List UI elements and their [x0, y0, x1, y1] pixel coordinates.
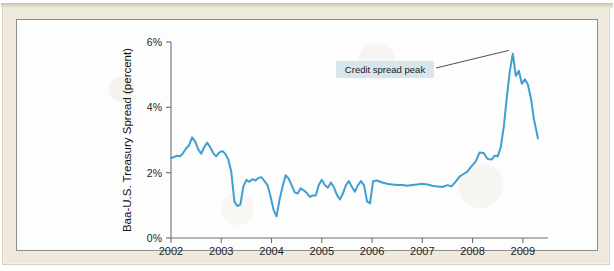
- x-tick-label: 2003: [209, 245, 233, 257]
- y-tick-label: 4%: [147, 101, 162, 113]
- series-line-baa-treasury-spread: [171, 54, 538, 217]
- x-tick-label: 2002: [159, 245, 183, 257]
- y-axis-title: Baa-U.S. Treasury Spread (percent): [121, 48, 133, 232]
- annotation-label: Credit spread peak: [345, 64, 426, 75]
- x-axis-ticks: [171, 238, 523, 243]
- x-tick-label: 2004: [259, 245, 283, 257]
- x-tick-label: 2006: [360, 245, 384, 257]
- x-axis-tick-labels: 20022003200420052006200720082009: [159, 245, 535, 257]
- credit-spread-line-chart: 0%2%4%6% 2002200320042005200620072008200…: [0, 0, 614, 271]
- annotation-leader-line: [436, 50, 509, 68]
- y-tick-label: 2%: [147, 167, 162, 179]
- x-tick-label: 2005: [310, 245, 334, 257]
- y-tick-label: 0%: [147, 232, 162, 244]
- y-tick-label: 6%: [147, 36, 162, 48]
- y-axis-ticks: [166, 42, 171, 238]
- y-axis-tick-labels: 0%2%4%6%: [147, 36, 162, 244]
- x-tick-label: 2008: [460, 245, 484, 257]
- x-tick-label: 2007: [410, 245, 434, 257]
- x-tick-label: 2009: [511, 245, 535, 257]
